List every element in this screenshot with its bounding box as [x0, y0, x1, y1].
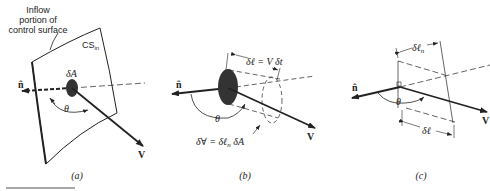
- normal-length-label: δℓn: [412, 42, 425, 55]
- velocity-vector: [400, 87, 487, 112]
- caption-c: (c): [415, 170, 427, 182]
- normal-label: n̂: [352, 82, 358, 93]
- velocity-label: V: [307, 131, 315, 142]
- velocity-vector: [72, 88, 143, 146]
- normal-vector: [22, 88, 72, 91]
- length-label: δℓ: [422, 125, 431, 136]
- normal-vector: [352, 87, 400, 98]
- flux-diagram: Inflow portion of control surface CSin θ…: [0, 0, 490, 191]
- caption-a: (a): [71, 170, 83, 182]
- theta-label: θ: [64, 103, 69, 114]
- surface-label: CSin: [82, 40, 99, 51]
- velocity-vector: [228, 88, 315, 128]
- theta-label: θ: [215, 113, 220, 124]
- panel-b: δℓ = V δt θ δ∀ = δℓn δA n̂ V (b): [172, 53, 315, 182]
- right-angle-mark: [397, 82, 401, 86]
- velocity-label: V: [482, 115, 490, 126]
- theta-label: θ: [396, 96, 401, 107]
- caption-b: (b): [239, 170, 251, 182]
- angle-arc: [378, 93, 424, 103]
- angle-arc: [50, 98, 88, 112]
- area-element: [218, 69, 238, 105]
- length-label: δℓ = V δt: [246, 56, 283, 67]
- callout-line-2: portion of: [19, 15, 57, 25]
- callout-line-3: control surface: [8, 25, 67, 35]
- velocity-label: V: [138, 149, 146, 160]
- normal-label: n̂: [176, 79, 182, 90]
- callout-line-1: Inflow: [26, 5, 50, 15]
- volume-label: δ∀ = δℓn δA: [196, 136, 245, 149]
- area-label: δA: [66, 68, 78, 79]
- normal-label: n̂: [18, 79, 24, 90]
- panel-a: Inflow portion of control surface CSin θ…: [6, 5, 146, 188]
- panel-c: δℓn δℓ θ n̂ V (c): [352, 41, 490, 182]
- callout-leader: [50, 33, 58, 50]
